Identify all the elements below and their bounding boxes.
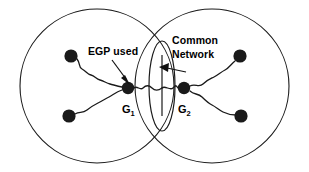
network-domain-diagram: EGP used Common Network G1 G2 xyxy=(0,0,309,172)
host-node-right-upper xyxy=(233,49,246,62)
link-host-left-upper-to-g1 xyxy=(77,59,122,87)
common-network-callout-arrowhead xyxy=(159,63,169,72)
common-network-label-line2: Network xyxy=(172,48,214,60)
right-domain-circle xyxy=(135,9,289,163)
link-g1-to-common-network xyxy=(134,86,162,91)
gateway-label-g2-base: G xyxy=(178,103,187,115)
host-node-left-upper xyxy=(64,49,77,62)
common-network-callout-leader-line xyxy=(167,68,186,72)
link-host-left-lower-to-g1 xyxy=(75,90,122,114)
link-common-network-to-g2 xyxy=(162,86,178,89)
host-node-right-lower xyxy=(234,109,247,122)
gateway-node-g1 xyxy=(122,82,134,94)
egp-used-label: EGP used xyxy=(88,45,138,57)
gateway-label-g2: G2 xyxy=(178,103,191,118)
gateway-node-g2 xyxy=(178,82,190,94)
diagram-canvas: EGP used Common Network G1 G2 xyxy=(0,0,309,172)
gateway-label-g1-subscript: 1 xyxy=(131,109,135,118)
gateway-label-g1: G1 xyxy=(122,103,135,118)
left-domain-circle xyxy=(20,9,174,163)
common-network-label-line1: Common xyxy=(172,34,218,46)
host-node-left-lower xyxy=(62,109,75,122)
gateway-label-g1-base: G xyxy=(122,103,131,115)
gateway-label-g2-subscript: 2 xyxy=(187,109,191,118)
link-g2-to-host-right-upper xyxy=(190,61,235,86)
link-g2-to-host-right-lower xyxy=(190,91,236,115)
